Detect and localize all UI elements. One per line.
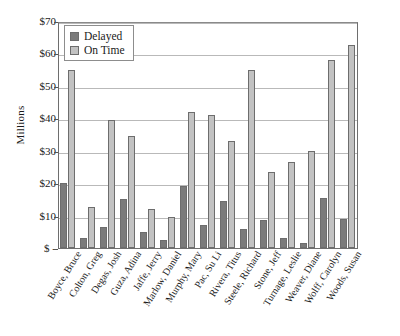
y-axis-tick-label: $10 [16,211,56,222]
bar-delayed [100,227,107,248]
bar-group [199,23,219,248]
bar-on-time [128,136,135,248]
bar-delayed [260,220,267,248]
bar-on-time [208,115,215,248]
bar-group [259,23,279,248]
y-axis-tick-label: $70 [16,16,56,27]
bar-on-time [88,207,95,248]
bar-delayed [240,229,247,248]
bar-on-time [348,45,355,248]
legend-item-label: On Time [84,44,125,56]
chart-legend: DelayedOn Time [64,25,134,61]
bar-on-time [188,112,195,248]
bar-delayed [200,225,207,248]
bar-delayed [60,183,67,248]
bar-on-time [228,141,235,248]
bar-group [239,23,259,248]
y-axis-tick-label: $20 [16,178,56,189]
legend-item: On Time [70,43,125,57]
legend-swatch-icon [70,32,79,41]
bar-group [319,23,339,248]
bar-on-time [328,60,335,248]
bar-delayed [220,201,227,248]
y-axis-tick-label: $40 [16,113,56,124]
bar-delayed [80,238,87,248]
y-axis-tick-label: $50 [16,81,56,92]
bar-delayed [180,186,187,248]
bar-delayed [160,240,167,248]
bar-on-time [168,217,175,248]
bar-on-time [308,151,315,248]
legend-item-label: Delayed [84,30,122,42]
bar-group [139,23,159,248]
legend-swatch-icon [70,46,79,55]
bar-delayed [300,243,307,248]
bar-on-time [248,70,255,248]
y-axis-tick-label: $30 [16,146,56,157]
bar-on-time [108,120,115,248]
x-axis-category-labels: Boyce, BruceColton, GregDegas, JoshGuza,… [58,249,358,336]
bar-group [339,23,359,248]
bar-group [179,23,199,248]
y-axis-tick-label: $60 [16,48,56,59]
bar-group [299,23,319,248]
bar-on-time [288,162,295,248]
bar-group [279,23,299,248]
bar-delayed [120,199,127,248]
bar-delayed [340,219,347,248]
y-axis-tick-label: $ - [16,243,56,254]
bar-group [159,23,179,248]
bar-on-time [148,209,155,248]
bar-on-time [268,172,275,248]
bar-on-time [68,70,75,248]
bar-delayed [140,232,147,248]
bar-delayed [320,198,327,248]
legend-item: Delayed [70,29,125,43]
bar-delayed [280,238,287,248]
bar-group [219,23,239,248]
bar-chart: Millions $70$60$50$40$30$20$10$ - Delaye… [0,0,400,336]
